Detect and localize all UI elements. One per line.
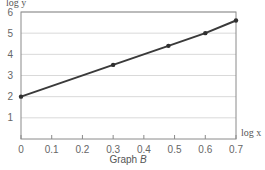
chart: 00.10.20.30.40.50.60.7 123456 log y log … (0, 0, 265, 170)
x-tick-label: 0 (18, 144, 24, 155)
x-tick-label: 0.2 (75, 144, 89, 155)
y-tick-label: 3 (7, 70, 13, 81)
caption-letter: B (140, 154, 147, 165)
y-axis-ticks: 123456 (7, 7, 13, 124)
x-axis-ticks: 00.10.20.30.40.50.60.7 (18, 135, 243, 155)
data-point-marker (166, 44, 170, 48)
data-point-marker (111, 63, 115, 67)
x-tick-label: 0.7 (229, 144, 243, 155)
x-tick-label: 0.6 (198, 144, 212, 155)
x-tick-label: 0.1 (45, 144, 59, 155)
x-axis-title: log x (241, 127, 261, 138)
data-point-marker (234, 18, 238, 22)
gridlines (21, 12, 236, 118)
y-tick-label: 1 (7, 112, 13, 123)
data-point-marker (203, 31, 207, 35)
data-series (19, 18, 238, 99)
y-tick-label: 5 (7, 28, 13, 39)
y-tick-label: 2 (7, 91, 13, 102)
chart-caption: Graph B (109, 154, 147, 165)
data-point-marker (19, 94, 23, 98)
caption-prefix: Graph (109, 154, 140, 165)
y-tick-label: 4 (7, 49, 13, 60)
x-tick-label: 0.5 (168, 144, 182, 155)
y-tick-label: 6 (7, 7, 13, 18)
y-axis-title: log y (6, 0, 26, 8)
